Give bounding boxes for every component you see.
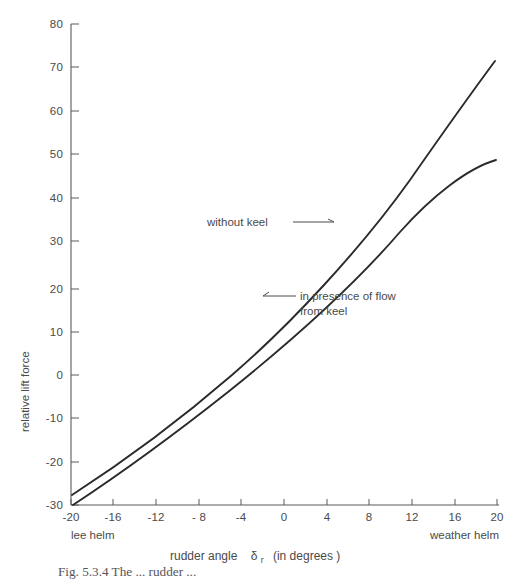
series-in-presence-of-flow-from-keel-line (73, 160, 496, 505)
x-tick-label-minus8: - 8 (192, 511, 206, 523)
y-tick-label-30: 30 (50, 235, 63, 247)
x-axis-title-symbol: δ (251, 549, 258, 563)
series-without-keel-line (72, 61, 495, 495)
x-tick-label-8: 8 (366, 511, 373, 523)
y-tick-label-minus20: -20 (46, 456, 63, 468)
y-tick-label-60: 60 (50, 105, 63, 117)
figure-container: 80 70 60 50 40 30 20 10 0 -10 -20 -30 (0, 0, 520, 581)
y-tick-label-minus10: -10 (46, 412, 63, 424)
y-tick-label-minus30: -30 (46, 499, 63, 511)
lift-force-chart: 80 70 60 50 40 30 20 10 0 -10 -20 -30 (0, 0, 520, 581)
y-tick-label-80: 80 (50, 18, 63, 30)
y-tick-label-50: 50 (50, 148, 63, 160)
x-tick-labels: -20 -16 -12 - 8 -4 0 4 8 12 16 20 (62, 511, 503, 523)
annotation-flow-keel-line1: in presence of flow (300, 290, 397, 302)
y-axis-title: relative lift force (19, 351, 31, 432)
x-tick-label-20: 20 (490, 511, 503, 523)
x-tick-marks (71, 499, 497, 505)
x-tick-label-4: 4 (324, 511, 331, 523)
x-tick-label-minus12: -12 (147, 511, 164, 523)
annotation-flow-keel-arrowhead (263, 292, 269, 296)
weather-helm-label: weather helm (429, 529, 499, 541)
x-tick-label-minus4: -4 (236, 511, 247, 523)
x-axis-title-prefix: rudder angle (170, 549, 238, 563)
y-tick-label-20: 20 (50, 283, 63, 295)
y-tick-marks (71, 24, 79, 505)
annotation-without-keel: without keel (206, 216, 334, 228)
y-tick-label-10: 10 (50, 326, 63, 338)
annotation-flow-keel-line2: from keel (300, 305, 347, 317)
x-axis-title-suffix: (in degrees ) (273, 549, 340, 563)
x-tick-label-minus16: -16 (104, 511, 121, 523)
annotation-without-keel-text: without keel (206, 216, 268, 228)
x-tick-label-12: 12 (405, 511, 418, 523)
y-tick-label-40: 40 (50, 192, 63, 204)
x-tick-label-minus20: -20 (62, 511, 79, 523)
y-tick-label-70: 70 (50, 61, 63, 73)
y-tick-labels: 80 70 60 50 40 30 20 10 0 -10 -20 -30 (46, 18, 63, 511)
y-tick-label-0: 0 (56, 369, 63, 381)
axes-group (71, 24, 499, 505)
figure-caption: Fig. 5.3.4 The ... rudder ... (58, 564, 518, 580)
x-tick-label-16: 16 (448, 511, 461, 523)
x-tick-label-0: 0 (281, 511, 288, 523)
lee-helm-label: lee helm (71, 529, 114, 541)
